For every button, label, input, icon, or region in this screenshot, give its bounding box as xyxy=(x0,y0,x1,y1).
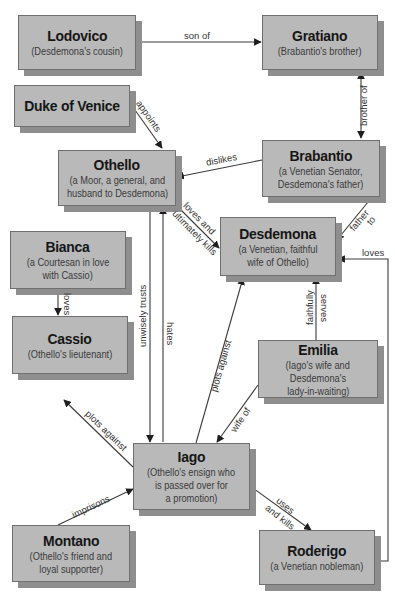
node-desc: husband to Desdemona) xyxy=(66,187,167,200)
node-desc: (Iago's wife and xyxy=(286,359,350,372)
node-desc: wife of Othello) xyxy=(247,256,309,269)
node-desc: with Cassio) xyxy=(43,269,93,282)
edge-roderigo-loves xyxy=(338,259,388,561)
node-desc: (Desdemona's cousin) xyxy=(31,45,123,58)
node-name: Gratiano xyxy=(292,27,347,45)
node-bianca: Bianca (a Courtesan in love with Cassio) xyxy=(10,231,126,289)
node-name: Bianca xyxy=(46,238,90,256)
node-name: Duke of Venice xyxy=(24,97,119,115)
node-name: Emilia xyxy=(298,341,337,359)
node-desc: loyal supporter) xyxy=(39,563,103,576)
label-brother-of: brother of xyxy=(358,85,369,126)
node-desdemona: Desdemona (a Venetian, faithful wife of … xyxy=(220,217,336,276)
label-son-of: son of xyxy=(184,30,210,41)
node-name: Othello xyxy=(94,156,140,174)
label-roderigo-loves: loves xyxy=(362,247,384,258)
node-duke-of-venice: Duke of Venice xyxy=(14,85,130,127)
node-name: Desdemona xyxy=(240,225,317,243)
node-name: Cassio xyxy=(48,330,92,348)
label-bianca-loves: loves xyxy=(62,293,73,315)
node-brabantio: Brabantio (a Venetian Senator, Desdemona… xyxy=(262,140,380,197)
node-cassio: Cassio (Othello's lieutenant) xyxy=(12,316,128,374)
node-desc: lady-in-waiting) xyxy=(287,385,349,398)
edge-plots-against-cassio xyxy=(64,400,133,467)
node-emilia: Emilia (Iago's wife and Desdemona's lady… xyxy=(258,340,378,398)
node-montano: Montano (Othello's friend and loyal supp… xyxy=(12,525,130,582)
node-desc: (a Courtesan in love xyxy=(27,256,110,269)
node-desc: Desdemona's father) xyxy=(278,178,363,191)
label-hates: hates xyxy=(165,322,176,345)
node-name: Roderigo xyxy=(287,542,346,560)
node-desc: a promotion) xyxy=(166,492,218,505)
node-name: Brabantio xyxy=(290,147,353,165)
node-iago: Iago (Othello's ensign who is passed ove… xyxy=(133,443,250,510)
node-desc: (a Venetian Senator, xyxy=(279,165,363,178)
node-desc: (Othello's friend and xyxy=(30,550,112,563)
node-desc: (a Moor, a general, and xyxy=(69,174,165,187)
node-desc: (Othello's ensign who xyxy=(147,466,235,479)
label-serves: serves xyxy=(319,294,330,322)
node-lodovico: Lodovico (Desdemona's cousin) xyxy=(18,15,136,70)
node-desc: Desdemona's xyxy=(290,372,346,385)
node-desc: (a Venetian nobleman) xyxy=(271,560,364,573)
node-desc: (Brabantio's brother) xyxy=(278,45,362,58)
node-desc: (Othello's lieutenant) xyxy=(28,348,112,361)
node-othello: Othello (a Moor, a general, and husband … xyxy=(58,150,176,206)
node-desc: (a Venetian, faithful xyxy=(238,243,317,256)
relationship-diagram: Lodovico (Desdemona's cousin) Gratiano (… xyxy=(0,0,395,599)
node-name: Montano xyxy=(43,532,99,550)
node-roderigo: Roderigo (a Venetian nobleman) xyxy=(259,530,375,585)
label-unwisely-trusts: unwisely trusts xyxy=(137,285,148,347)
node-desc: is passed over for xyxy=(155,479,228,492)
node-name: Iago xyxy=(178,448,206,466)
node-gratiano: Gratiano (Brabantio's brother) xyxy=(262,15,378,70)
label-faithfully: faithfully xyxy=(304,290,315,325)
node-name: Lodovico xyxy=(47,27,107,45)
